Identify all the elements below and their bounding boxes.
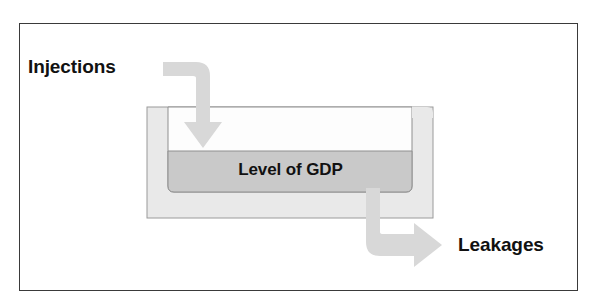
- leakages-label: Leakages: [458, 234, 544, 256]
- gdp-level-label: Level of GDP: [0, 160, 590, 180]
- injections-label: Injections: [28, 56, 116, 78]
- diagram-page: Injections Level of GDP Leakages: [0, 0, 599, 308]
